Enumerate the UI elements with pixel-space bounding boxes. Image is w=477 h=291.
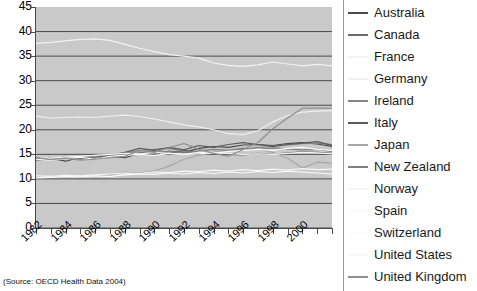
series-line [36,169,332,177]
y-axis-tick [30,81,36,82]
legend-label: Ireland [374,94,414,108]
x-axis-tick [317,229,318,234]
legend-swatch [348,254,368,256]
legend-label: Australia [374,6,425,20]
legend-item-italy[interactable]: Italy [344,112,398,134]
legend-swatch [348,78,368,80]
series-lines [36,7,332,228]
legend-label: United Kingdom [374,270,467,284]
y-axis-tick-label: 5 [6,196,32,208]
legend-item-norway[interactable]: Norway [344,178,418,200]
x-axis-tick [332,229,333,234]
y-axis-tick [30,7,36,8]
legend-item-new-zealand[interactable]: New Zealand [344,156,451,178]
y-axis-tick-label: 45 [6,0,32,12]
chart-screenshot: 051015202530354045 198219841986198819901… [0,0,477,291]
y-axis-tick [30,130,36,131]
y-axis-tick [30,179,36,180]
legend-swatch [348,210,368,212]
y-axis-tick [30,203,36,204]
legend-swatch [348,100,368,102]
y-axis-tick-label: 30 [6,74,32,86]
legend-label: United States [374,248,452,262]
y-axis-tick [30,105,36,106]
legend-item-australia[interactable]: Australia [344,2,425,24]
series-line [36,171,332,178]
legend-label: New Zealand [374,160,451,174]
legend-swatch [348,276,368,278]
y-axis-labels: 051015202530354045 [0,0,32,240]
legend-label: Spain [374,204,407,218]
legend-item-germany[interactable]: Germany [344,68,427,90]
legend-label: Italy [374,116,398,130]
legend-label: Switzerland [374,226,441,240]
legend-swatch [348,56,368,58]
legend-swatch [348,122,368,124]
legend-item-united-kingdom[interactable]: United Kingdom [344,266,467,288]
y-axis-tick [30,154,36,155]
y-axis-tick-label: 10 [6,172,32,184]
legend-swatch [348,12,368,14]
y-axis-tick-label: 15 [6,147,32,159]
series-line [36,111,332,135]
legend-item-spain[interactable]: Spain [344,200,407,222]
plot-area [36,7,332,228]
y-axis-tick [30,32,36,33]
y-axis-tick-label: 25 [6,98,32,110]
legend-label: Canada [374,28,420,42]
series-line [36,39,332,67]
legend-swatch [348,144,368,146]
chart-legend: AustraliaCanadaFranceGermanyIrelandItaly… [343,0,477,291]
legend-label: Norway [374,182,418,196]
y-axis-tick [30,228,36,229]
source-note: (Source: OECD Health Data 2004) [3,277,126,286]
legend-swatch [348,188,368,190]
legend-swatch [348,232,368,234]
legend-item-ireland[interactable]: Ireland [344,90,414,112]
legend-item-switzerland[interactable]: Switzerland [344,222,441,244]
legend-label: Germany [374,72,427,86]
y-axis-tick [30,56,36,57]
y-axis-tick-label: 40 [6,25,32,37]
y-axis-tick-label: 35 [6,49,32,61]
legend-label: France [374,50,414,64]
legend-item-canada[interactable]: Canada [344,24,420,46]
legend-label: Japan [374,138,409,152]
legend-swatch [348,34,368,36]
legend-item-france[interactable]: France [344,46,414,68]
y-axis-tick-label: 20 [6,123,32,135]
legend-swatch [348,166,368,168]
legend-item-united-states[interactable]: United States [344,244,452,266]
line-chart: 051015202530354045 198219841986198819901… [0,0,338,291]
legend-item-japan[interactable]: Japan [344,134,409,156]
